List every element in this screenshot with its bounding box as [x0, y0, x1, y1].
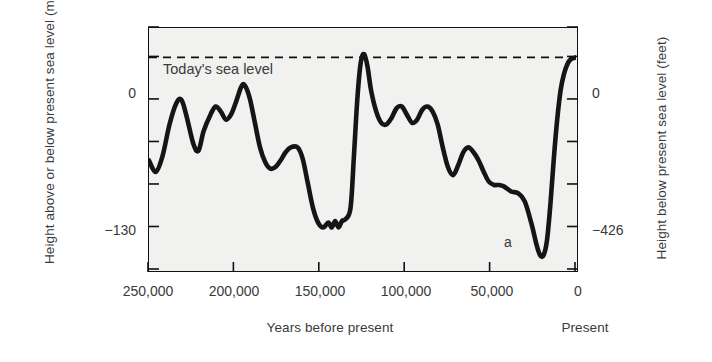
sea-level-curve [149, 54, 576, 257]
y-tick-label-right-426: −426 [592, 222, 672, 238]
x-tick-label-0: 0 [538, 283, 618, 299]
y-axis-left-title: Height above or below present sea level … [42, 36, 58, 264]
x-axis-present-label: Present [530, 320, 640, 336]
y-tick-label-left-130: −130 [62, 222, 136, 238]
y-tick-label-left-0: 0 [74, 85, 136, 101]
plot-area: Today's sea level a [148, 27, 578, 272]
x-tick-label-50000: 50,000 [437, 283, 547, 299]
figure-sea-level-curve: Height above or below present sea level … [0, 0, 712, 362]
annotation-a: a [504, 234, 512, 250]
y-tick-label-right-0: 0 [592, 85, 662, 101]
sea-level-annotation: Today's sea level [163, 61, 273, 77]
x-axis-title: Years before present [180, 320, 480, 336]
